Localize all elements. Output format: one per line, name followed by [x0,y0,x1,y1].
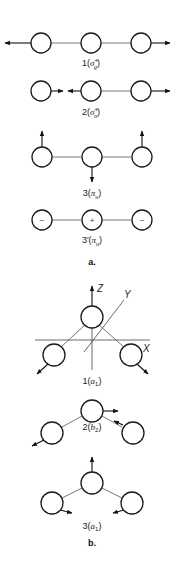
atom-left [32,147,52,167]
mode-3prime-pi-u: − + − 3′(πu) [32,210,152,247]
mode-3-a1: 3(a1) [41,457,143,532]
panel-b-label: b. [88,538,96,548]
atom-top [81,400,103,422]
atom-center [82,147,102,167]
atom-right [122,422,144,444]
atom-left [41,492,63,514]
atom-top [81,306,103,328]
atom-right [131,33,151,53]
mode-3-pi-u: 3(πu) [32,131,152,200]
x-axis-label: X [142,343,150,354]
displacement-arrow-left [32,440,44,446]
minus-sign: − [140,216,145,225]
mode-label: 3(a1) [83,521,102,532]
atom-left [31,81,51,101]
mode-2-sigma-u: 2(σ+u) [31,81,170,119]
mode-label: 3′(πu) [82,235,102,247]
plus-sign: + [90,216,95,225]
atom-top [81,472,103,494]
mode-label: 1(a1) [83,376,102,387]
mode-label: 2(b2) [83,422,102,433]
mode-label: 1(σ+g) [82,57,100,70]
z-axis-label: Z [96,283,104,294]
y-axis-label: Y [124,289,132,300]
displacement-arrow-left [60,510,72,513]
panel-a-label: a. [88,257,96,267]
atom-right [120,344,142,366]
atom-right [132,147,152,167]
vibrational-modes-figure: 1(σ+g) 2(σ+u) 3(πu) − + [0,0,170,562]
atom-right [131,81,151,101]
mode-2-b2: 2(b2) [32,400,144,446]
displacement-arrow-right [137,364,148,374]
atom-center [81,33,101,53]
displacement-arrow-left [37,364,48,374]
atom-right [121,492,143,514]
mode-1-sigma-g: 1(σ+g) [5,33,170,70]
atom-center [81,81,101,101]
atom-left [43,344,65,366]
displacement-arrow-right [113,510,124,513]
mode-label: 2(σ+u) [82,106,100,119]
mode-label: 3(πu) [83,188,102,200]
atom-left [31,33,51,53]
minus-sign: − [40,216,45,225]
atom-left [41,422,63,444]
mode-1-a1: Z Y X 1(a1) [35,283,150,387]
